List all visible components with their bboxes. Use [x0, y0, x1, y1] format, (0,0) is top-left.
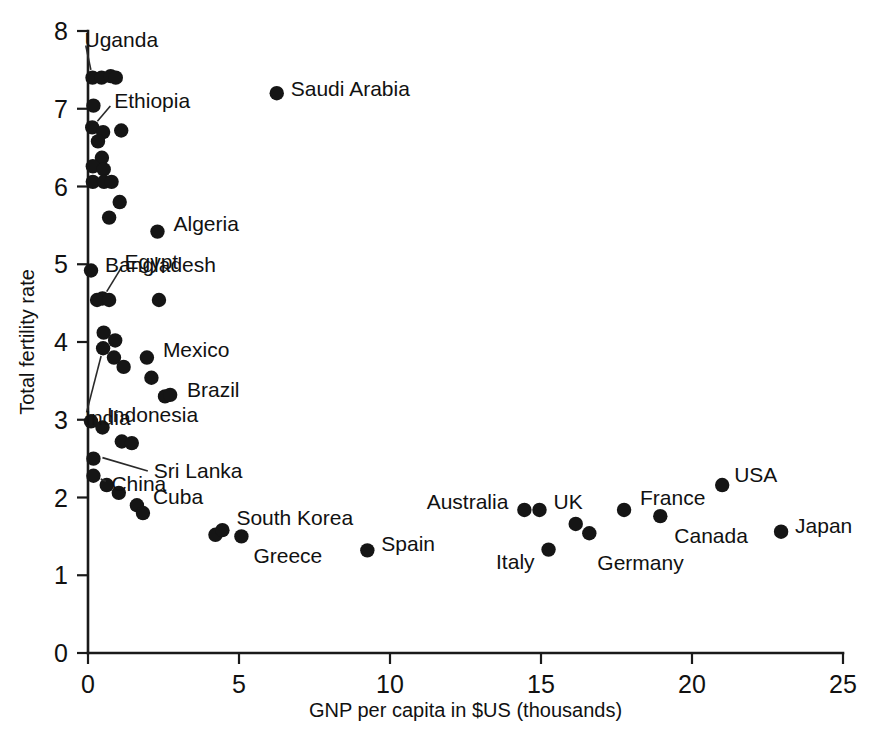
- point-label-south-korea: South Korea: [236, 506, 353, 529]
- point-label-greece: Greece: [253, 544, 322, 567]
- data-point-24: [108, 333, 122, 347]
- point-label-japan: Japan: [795, 514, 852, 537]
- leader-line-sri-lanka: [102, 458, 147, 471]
- x-axis-title: GNP per capita in $US (thousands): [309, 699, 622, 721]
- point-label-egypt: Egypt: [124, 250, 178, 273]
- x-tick-label-15: 15: [527, 670, 555, 698]
- x-tick-label-5: 5: [232, 670, 246, 698]
- point-label-ethiopia: Ethiopia: [114, 89, 190, 112]
- y-tick-label-2: 2: [54, 484, 68, 512]
- data-point-14: [104, 175, 118, 189]
- y-tick-label-4: 4: [54, 328, 68, 356]
- point-label-algeria: Algeria: [173, 212, 239, 235]
- y-axis-title: Total fertility rate: [16, 269, 38, 415]
- point-label-sri-lanka: Sri Lanka: [154, 459, 243, 482]
- data-point-uk: [532, 503, 546, 517]
- data-point-bangladesh: [84, 263, 98, 277]
- point-label-mexico: Mexico: [163, 338, 230, 361]
- point-label-usa: USA: [734, 463, 777, 486]
- data-point-algeria: [150, 224, 164, 238]
- point-label-saudi-arabia: Saudi Arabia: [291, 77, 410, 100]
- x-tick-label-20: 20: [678, 670, 706, 698]
- data-point-china: [86, 469, 100, 483]
- data-point-31: [163, 388, 177, 402]
- x-tick-label-25: 25: [829, 670, 857, 698]
- x-tick-label-0: 0: [81, 670, 95, 698]
- data-point-saudi-arabia: [270, 86, 284, 100]
- data-point-11: [97, 162, 111, 176]
- data-point-28: [116, 360, 130, 374]
- point-label-indonesia: Indonesia: [107, 403, 198, 426]
- point-label-spain: Spain: [381, 532, 435, 555]
- data-point-india: [96, 341, 110, 355]
- y-tick-label-3: 3: [54, 406, 68, 434]
- scatter-plot-figure: 0123456780510152025 UgandaEthiopiaAlgeri…: [0, 0, 880, 746]
- data-point-16: [102, 210, 116, 224]
- y-tick-label-7: 7: [54, 95, 68, 123]
- y-tick-label-8: 8: [54, 17, 68, 45]
- point-label-brazil: Brazil: [187, 378, 240, 401]
- data-point-8: [91, 134, 105, 148]
- point-label-canada: Canada: [674, 524, 748, 547]
- data-point-italy: [541, 542, 555, 556]
- point-label-uganda: Uganda: [85, 28, 159, 51]
- data-point-usa: [715, 478, 729, 492]
- data-point-france: [617, 503, 631, 517]
- y-tick-label-1: 1: [54, 561, 68, 589]
- data-point-south-korea: [215, 523, 229, 537]
- y-tick-label-5: 5: [54, 250, 68, 278]
- data-point-15: [113, 195, 127, 209]
- data-point-22: [152, 293, 166, 307]
- data-point-mexico: [140, 350, 154, 364]
- data-point-australia: [517, 503, 531, 517]
- data-point-germany: [582, 526, 596, 540]
- data-point-7: [114, 123, 128, 137]
- point-label-france: France: [640, 486, 705, 509]
- y-tick-label-6: 6: [54, 173, 68, 201]
- point-label-italy: Italy: [496, 550, 535, 573]
- data-point-49: [569, 517, 583, 531]
- data-point-3: [109, 70, 123, 84]
- data-point-36: [86, 451, 100, 465]
- data-point-sri-lanka: [125, 436, 139, 450]
- data-point-greece: [234, 529, 248, 543]
- y-tick-label-0: 0: [54, 639, 68, 667]
- data-point-japan: [774, 525, 788, 539]
- data-point-canada: [653, 509, 667, 523]
- point-label-cuba: Cuba: [153, 485, 204, 508]
- data-point-spain: [360, 543, 374, 557]
- point-label-germany: Germany: [597, 551, 684, 574]
- data-point-29: [144, 371, 158, 385]
- point-label-uk: UK: [553, 490, 582, 513]
- data-point-41: [136, 506, 150, 520]
- data-points-layer: [84, 69, 788, 558]
- point-labels-layer: UgandaEthiopiaAlgeriaBangladeshEgyptIndi…: [85, 28, 853, 575]
- data-point-4: [86, 98, 100, 112]
- x-tick-label-10: 10: [376, 670, 404, 698]
- data-point-21: [102, 293, 116, 307]
- point-label-australia: Australia: [427, 490, 509, 513]
- plot-canvas: 0123456780510152025 UgandaEthiopiaAlgeri…: [0, 0, 880, 746]
